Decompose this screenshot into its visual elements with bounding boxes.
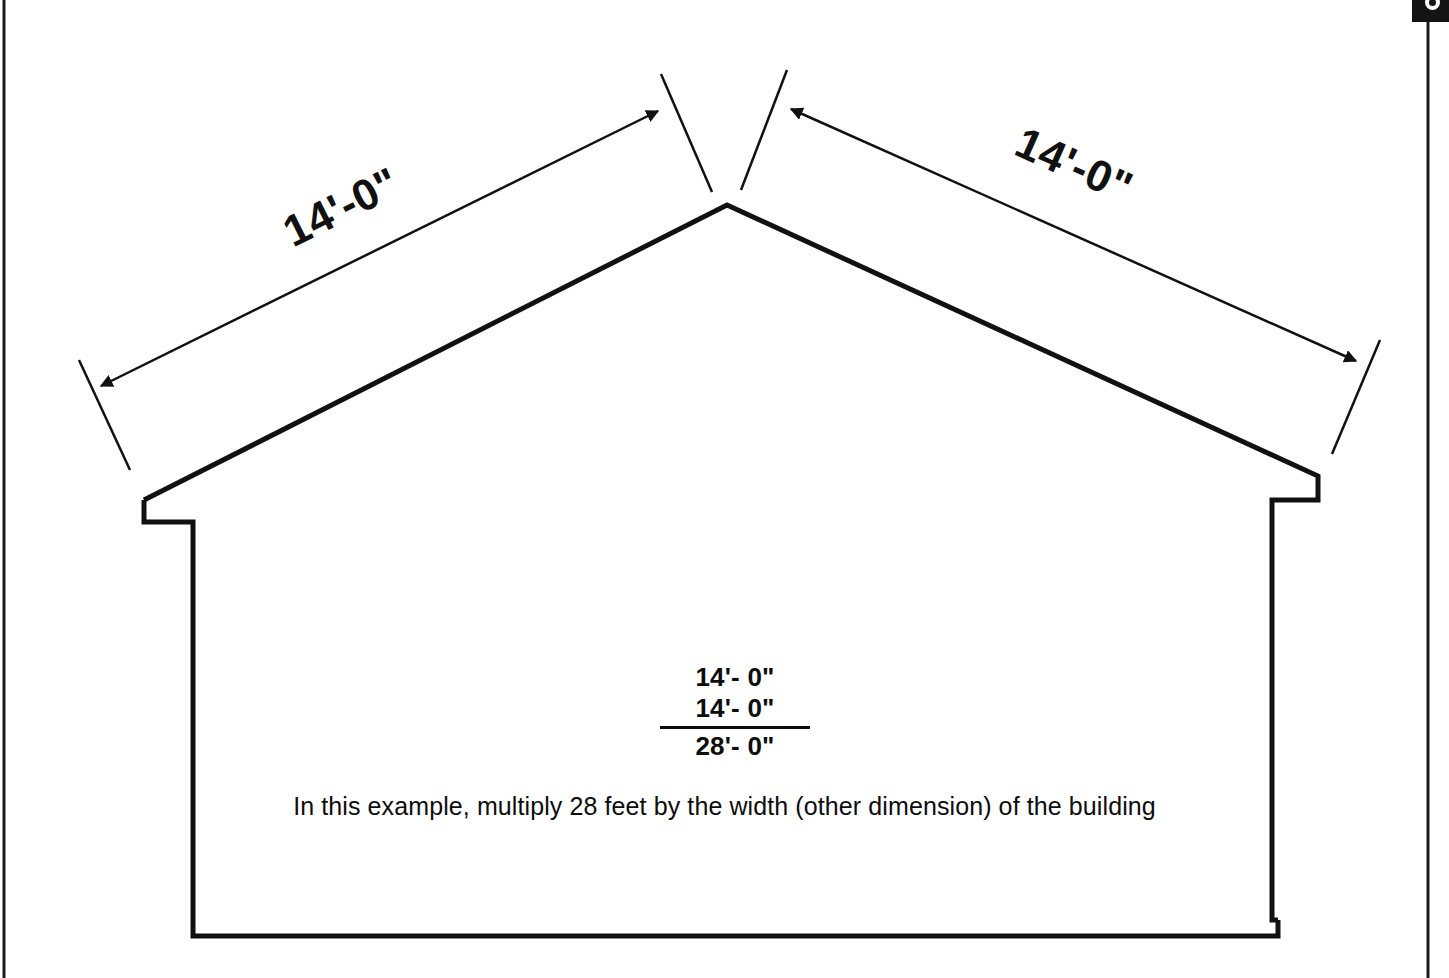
sum-total: 28'- 0" <box>660 729 810 762</box>
witness-line-peak-left <box>661 74 712 192</box>
sum-calculation-block: 14'- 0" 14'- 0" 28'- 0" <box>660 662 810 762</box>
dimension-line-left-slope <box>101 111 658 386</box>
caption-text: In this example, multiply 28 feet by the… <box>0 792 1449 821</box>
circle-marker-icon <box>1412 0 1449 22</box>
sum-addend-first: 14'- 0" <box>660 662 810 693</box>
diagram-page: 14'-0" 14'-0" 14'- 0" 14'- 0" 28'- 0" In… <box>0 0 1449 978</box>
witness-line-right-eave <box>1332 340 1380 454</box>
diagram-canvas <box>0 0 1449 978</box>
sum-addend-second: 14'- 0" <box>660 693 810 729</box>
circle-glyph <box>1425 0 1440 10</box>
witness-line-peak-right <box>741 70 787 190</box>
